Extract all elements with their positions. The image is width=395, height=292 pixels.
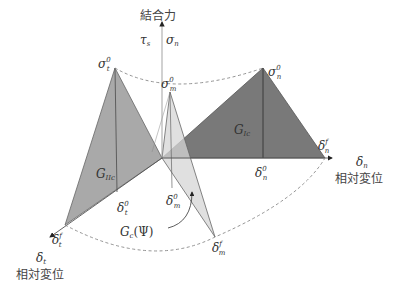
label-delta-mf: δfm	[212, 240, 226, 257]
label-delta-tf: δft	[52, 232, 63, 249]
tangential-axis-title: 相対変位	[16, 267, 64, 282]
label-sigma-n0: σ0n	[268, 64, 282, 81]
mixed-mode-triangle	[152, 92, 215, 237]
label-delta-n0: δ0n	[255, 165, 268, 182]
label-delta-nf: δfn	[318, 138, 330, 155]
normal-axis-title: 相対変位	[335, 171, 383, 186]
label-gc-psi: Gc(Ψ)	[120, 225, 153, 240]
label-delta-t0: δ0t	[117, 200, 129, 217]
label-sigma-m0: σ0m	[161, 76, 177, 93]
vertical-axis-title: 結合力	[140, 8, 176, 23]
svg-text:τs: τs	[140, 33, 151, 48]
svg-text:σn: σn	[166, 33, 179, 48]
peak-envelope-arc	[115, 68, 263, 84]
normal-axis-symbol: δn	[356, 155, 368, 170]
label-delta-m0: δ0m	[166, 193, 181, 210]
tangential-axis-symbol: δt	[36, 251, 46, 266]
mode-ii-triangle	[65, 68, 162, 225]
vertical-axis-symbols: τs σn	[140, 33, 179, 48]
label-sigma-t0: σ0t	[98, 56, 111, 73]
cohesive-law-diagram: 結合力 τs σn σ0t σ0m σ0n GIc GIIc δ0n δfn δ…	[0, 0, 395, 292]
